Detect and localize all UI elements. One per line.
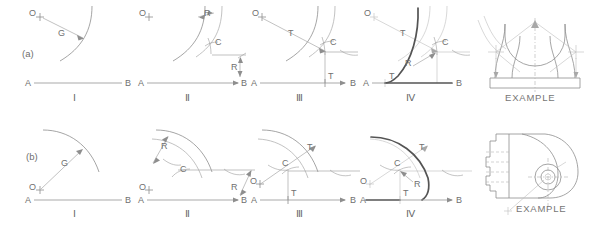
center-mark-example — [504, 207, 512, 215]
label-a4-o: O — [364, 8, 371, 18]
label-b3-b: B — [350, 195, 356, 205]
label-b1-a: A — [25, 195, 31, 205]
label-a4-b: B — [456, 78, 462, 88]
center-mark-o — [36, 13, 44, 21]
label-a3-a: A — [251, 78, 257, 88]
label-a3-t-lower: T — [328, 71, 334, 81]
label-b3-t-upper: T — [307, 142, 313, 152]
label-a3-c: C — [330, 37, 337, 47]
center-mark-o — [145, 13, 153, 21]
step-label-a2: Ⅱ — [185, 92, 190, 103]
label-b3-c: C — [282, 158, 289, 168]
panel-b-1 — [34, 130, 122, 200]
label-a2-c: C — [215, 37, 222, 47]
label-b3-t-lower: T — [291, 188, 297, 198]
step-label-a3: Ⅲ — [296, 92, 303, 103]
label-a4-a: A — [363, 78, 369, 88]
label-b2-r-left: R — [161, 141, 168, 151]
label-a4-c: C — [442, 37, 449, 47]
label-a2-r-right: R — [231, 62, 238, 72]
label-b4-t-upper: T — [419, 142, 425, 152]
label-a1-o: O — [29, 8, 36, 18]
label-a4-t-lower: T — [389, 71, 395, 81]
label-b4-o: O — [360, 176, 367, 186]
label-a2-b: B — [241, 78, 247, 88]
step-label-b3: Ⅲ — [296, 208, 303, 219]
label-b2-a: A — [138, 195, 144, 205]
label-b4-r: R — [414, 179, 421, 189]
label-b2-o: O — [139, 182, 146, 192]
label-a2-a: A — [138, 78, 144, 88]
step-label-b4: Ⅳ — [406, 208, 416, 219]
label-b3-a: A — [251, 195, 257, 205]
label-b1-b: B — [125, 195, 131, 205]
label-a1-g: G — [58, 28, 65, 38]
label-b2-c: C — [180, 164, 187, 174]
step-label-b1: Ⅰ — [73, 208, 76, 219]
row-label-b: (b) — [26, 151, 38, 162]
label-a2-r-left: R — [204, 8, 211, 18]
label-b2-r-right: R — [231, 182, 238, 192]
label-b3-o: O — [250, 176, 257, 186]
row-label-a: (a) — [22, 48, 34, 59]
label-a3-o: O — [252, 8, 259, 18]
example-label-b: EXAMPLE — [516, 203, 566, 214]
label-b4-b: B — [456, 195, 462, 205]
label-a1-a: A — [25, 78, 31, 88]
center-mark-o — [145, 186, 153, 194]
drawing-sheet: O G (a) A B Ⅰ O R C R A B Ⅱ — [0, 0, 598, 227]
label-b4-t-lower: T — [403, 188, 409, 198]
step-label-a1: Ⅰ — [73, 92, 76, 103]
construction-figure: O G (a) A B Ⅰ O R C R A B Ⅱ — [0, 0, 598, 227]
label-a1-b: B — [125, 78, 131, 88]
panel-a-example — [478, 16, 584, 92]
example-label-a: EXAMPLE — [505, 92, 555, 103]
label-a4-r: R — [405, 58, 412, 68]
label-b4-c: C — [394, 158, 401, 168]
label-a3-t-upper: T — [288, 28, 294, 38]
step-label-a4: Ⅳ — [406, 92, 416, 103]
label-b1-g: G — [61, 158, 68, 168]
panel-a-2 — [145, 6, 246, 86]
panel-a-4 — [370, 6, 470, 87]
panel-a-1 — [34, 6, 122, 83]
label-b2-b: B — [241, 195, 247, 205]
label-a2-o: O — [139, 8, 146, 18]
label-b4-a: A — [360, 195, 366, 205]
panel-a-3 — [258, 6, 358, 87]
step-label-b2: Ⅱ — [185, 208, 190, 219]
label-b1-o: O — [29, 182, 36, 192]
label-a3-b: B — [350, 78, 356, 88]
label-a4-t-upper: T — [400, 28, 406, 38]
